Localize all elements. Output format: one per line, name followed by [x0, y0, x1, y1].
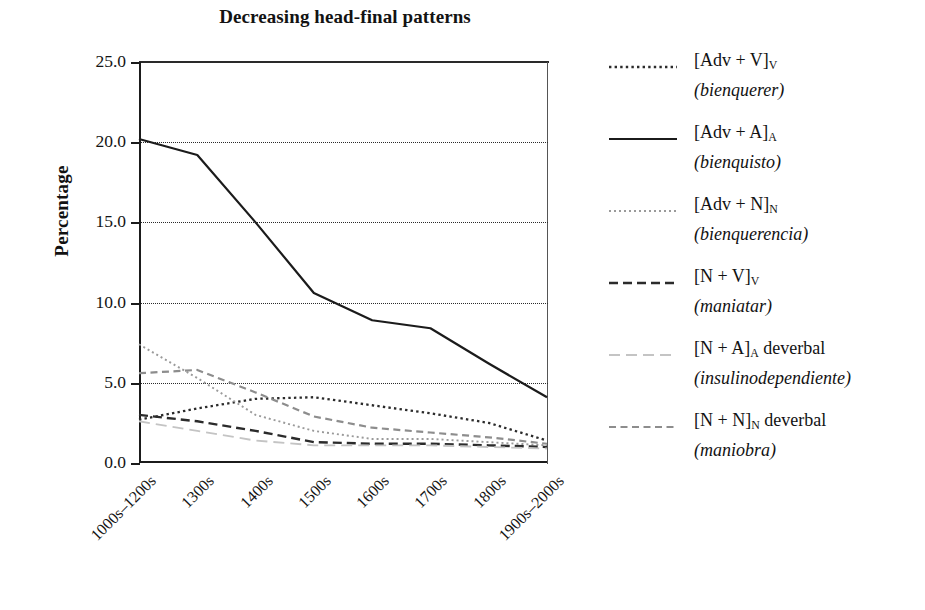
legend-label-subscript: A	[750, 346, 759, 360]
legend-label-example: (insulinodependiente)	[694, 366, 851, 391]
legend-line-swatch	[608, 205, 678, 217]
legend-item[interactable]: [Adv + V]V(bienquerer)	[608, 48, 918, 120]
series-line-1	[139, 139, 547, 397]
legend-label: [N + A]A deverbal(insulinodependiente)	[694, 336, 851, 391]
data-series-layer	[139, 62, 547, 463]
legend-label-subscript: N	[769, 202, 778, 216]
legend-label: [Adv + V]V(bienquerer)	[694, 48, 784, 103]
x-axis-tick-label: 1700s	[411, 472, 451, 512]
y-axis-tick-label: 0.0	[66, 452, 126, 473]
legend-label: [Adv + N]N(bienquerencia)	[694, 192, 808, 247]
legend-label-subscript: V	[751, 274, 760, 288]
y-axis-tick-label: 10.0	[66, 292, 126, 313]
legend-item[interactable]: [N + A]A deverbal(insulinodependiente)	[608, 336, 918, 408]
legend-label: [Adv + A]A(bienquisto)	[694, 120, 781, 175]
y-axis-title: Percentage	[51, 111, 73, 311]
legend-label-main: [N + A]A deverbal	[694, 336, 851, 366]
legend-label-main: [N + V]V	[694, 264, 772, 294]
y-axis-tick-label: 15.0	[66, 211, 126, 232]
x-axis-tick-label: 1800s	[470, 472, 510, 512]
chart-page: Decreasing head-final patterns 0.05.010.…	[0, 0, 925, 610]
legend-label-main: [Adv + A]A	[694, 120, 781, 150]
plot-container: 0.05.010.015.020.025.0 Percentage 1000s–…	[0, 0, 600, 610]
legend-line-swatch	[608, 349, 678, 361]
x-axis-tick-label: 1000s–1200s	[87, 472, 159, 544]
legend-line-swatch	[608, 421, 678, 433]
legend-label-subscript: A	[768, 130, 777, 144]
legend-label-example: (bienquerer)	[694, 78, 784, 103]
y-axis-tick-label: 5.0	[66, 372, 126, 393]
series-line-2	[139, 344, 547, 445]
x-axis-tick-label: 1500s	[295, 472, 335, 512]
legend-label: [N + V]V(maniatar)	[694, 264, 772, 319]
legend-line-swatch	[608, 133, 678, 145]
legend-item[interactable]: [Adv + A]A(bienquisto)	[608, 120, 918, 192]
legend-label-main: [Adv + V]V	[694, 48, 784, 78]
legend-label-main: [N + N]N deverbal	[694, 408, 826, 438]
legend-label-main: [Adv + N]N	[694, 192, 808, 222]
legend-label-subscript: N	[751, 418, 760, 432]
legend-item[interactable]: [Adv + N]N(bienquerencia)	[608, 192, 918, 264]
y-axis-tick	[131, 463, 140, 465]
y-axis-tick-label: 25.0	[66, 51, 126, 72]
chart-legend: [Adv + V]V(bienquerer)[Adv + A]A(bienqui…	[608, 48, 918, 480]
legend-item[interactable]: [N + N]N deverbal(maniobra)	[608, 408, 918, 480]
legend-label-example: (maniatar)	[694, 294, 772, 319]
legend-label: [N + N]N deverbal(maniobra)	[694, 408, 826, 463]
legend-label-example: (bienquerencia)	[694, 222, 808, 247]
x-axis-tick-label: 1300s	[178, 472, 218, 512]
y-axis-tick-label: 20.0	[66, 131, 126, 152]
x-axis-tick-label: 1400s	[237, 472, 277, 512]
legend-item[interactable]: [N + V]V(maniatar)	[608, 264, 918, 336]
legend-line-swatch	[608, 61, 678, 73]
legend-line-swatch	[608, 277, 678, 289]
plot-right-border	[547, 62, 548, 464]
x-axis-tick-label: 1600s	[353, 472, 393, 512]
legend-label-example: (maniobra)	[694, 438, 826, 463]
legend-label-example: (bienquisto)	[694, 150, 781, 175]
legend-label-subscript: V	[769, 58, 778, 72]
